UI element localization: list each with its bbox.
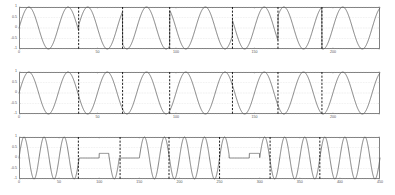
x-axis-tick-label: 350 [297,181,303,185]
figure-canvas: -1-0.500.51050100150200 -1-0.500.5105010… [0,0,395,195]
y-axis-tick-label: 0 [0,26,17,30]
y-axis-tick-label: 1 [0,135,17,139]
x-axis-tick-label: 0 [18,181,20,185]
x-axis-tick-label: 150 [251,116,257,120]
x-axis-tick-label: 300 [257,181,263,185]
x-axis-tick-label: 50 [57,181,61,185]
x-axis-tick-label: 150 [251,51,257,55]
subplot-2: -1-0.500.51050100150200 [0,65,395,130]
x-axis-tick-label: 50 [95,116,99,120]
plot-drawing-area [0,0,395,65]
x-axis-tick-label: 100 [173,116,179,120]
x-axis-tick-label: 200 [330,116,336,120]
x-axis-tick-label: 200 [330,51,336,55]
plot-drawing-area [0,130,395,195]
y-axis-tick-label: 0.5 [0,146,17,150]
x-axis-tick-label: 150 [136,181,142,185]
x-axis-tick-label: 200 [176,181,182,185]
y-axis-tick-label: 0 [0,156,17,160]
y-axis-tick-label: 1 [0,5,17,9]
y-axis-tick-label: 0 [0,91,17,95]
x-axis-tick-label: 0 [18,116,20,120]
y-axis-tick-label: -1 [0,177,17,181]
subplot-1: -1-0.500.51050100150200 [0,0,395,65]
y-axis-tick-label: 0.5 [0,16,17,20]
y-axis-tick-label: -0.5 [0,102,17,106]
y-axis-tick-label: -0.5 [0,167,17,171]
x-axis-tick-label: 0 [18,51,20,55]
x-axis-tick-label: 450 [377,181,383,185]
signal-waveform-carrier-reference-signal [19,72,380,114]
y-axis-tick-label: 0.5 [0,81,17,85]
y-axis-tick-label: -0.5 [0,37,17,41]
y-axis-tick-label: -1 [0,47,17,51]
plot-drawing-area [0,65,395,130]
x-axis-tick-label: 50 [95,51,99,55]
y-axis-tick-label: 1 [0,70,17,74]
signal-waveform-on-off-keyed-output-signal [19,137,380,179]
y-axis-tick-label: -1 [0,112,17,116]
signal-waveform-phase-shift-keyed-signal [19,7,380,49]
x-axis-tick-label: 250 [217,181,223,185]
x-axis-tick-label: 100 [96,181,102,185]
x-axis-tick-label: 100 [173,51,179,55]
subplot-3: -1-0.500.51050100150200250300350400450 [0,130,395,195]
x-axis-tick-label: 400 [337,181,343,185]
